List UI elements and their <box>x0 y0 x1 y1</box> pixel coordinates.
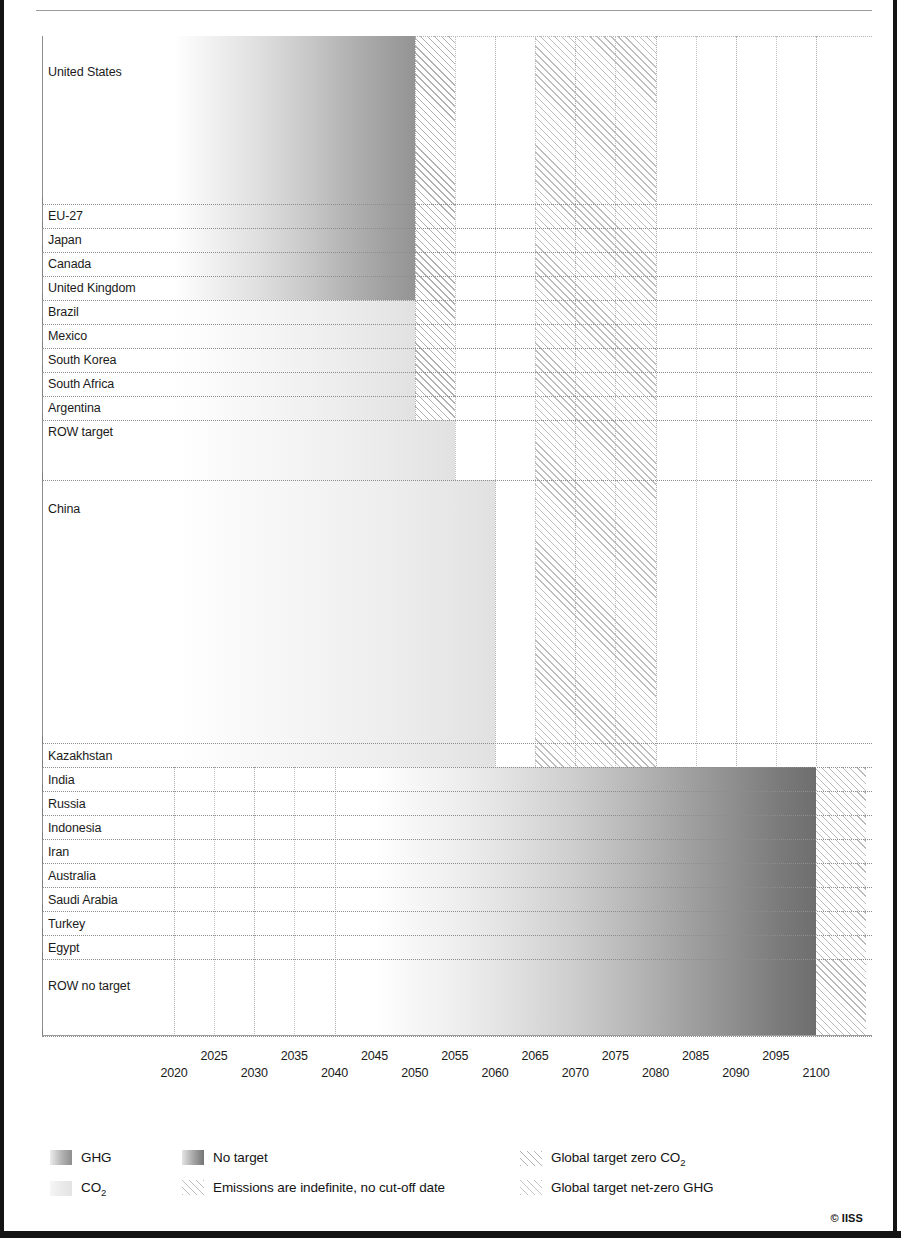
category-label-china: China <box>48 503 80 516</box>
category-label-egypt: Egypt <box>48 942 79 955</box>
legend-label-global-ghg: Global target net-zero GHG <box>551 1180 713 1195</box>
x-label-2080: 2080 <box>642 1066 669 1080</box>
category-tick <box>42 952 43 959</box>
indefinite-tail-indonesia <box>816 815 866 839</box>
bar-kazakhstan <box>174 743 495 767</box>
swatch-co2-icon <box>50 1181 72 1196</box>
row-separator <box>42 863 872 864</box>
x-label-2020: 2020 <box>160 1066 187 1080</box>
category-tick <box>42 880 43 887</box>
indefinite-tail-iran <box>816 839 866 863</box>
bar-russia <box>375 791 816 815</box>
indefinite-tail-egypt <box>816 935 866 959</box>
bar-iran <box>375 839 816 863</box>
row-separator <box>42 204 872 205</box>
legend-item-global-ghg: Global target net-zero GHG <box>520 1180 713 1195</box>
x-label-2035: 2035 <box>281 1049 308 1063</box>
bar-japan <box>174 228 415 252</box>
row-separator <box>42 420 872 421</box>
bar-canada <box>174 252 415 276</box>
bar-saudi-arabia <box>375 887 816 911</box>
category-label-united-states: United States <box>48 66 122 79</box>
category-label-south-africa: South Africa <box>48 378 114 391</box>
swatch-global-ghg-icon <box>520 1180 542 1195</box>
category-label-canada: Canada <box>48 258 91 271</box>
x-label-2075: 2075 <box>602 1049 629 1063</box>
row-separator <box>42 935 872 936</box>
x-label-2030: 2030 <box>241 1066 268 1080</box>
row-separator <box>42 480 872 481</box>
bar-indonesia <box>375 815 816 839</box>
category-tick <box>42 832 43 839</box>
category-label-turkey: Turkey <box>48 918 85 931</box>
category-label-argentina: Argentina <box>48 402 101 415</box>
swatch-ghg-icon <box>50 1150 72 1165</box>
bar-south-africa <box>174 372 415 396</box>
row-separator <box>42 276 872 277</box>
category-label-row-no-target: ROW no target <box>48 980 130 993</box>
x-label-2065: 2065 <box>522 1049 549 1063</box>
category-tick <box>42 317 43 324</box>
indefinite-tail-row-no-target <box>816 959 866 1036</box>
indefinite-tail-india <box>816 767 866 791</box>
category-tick <box>42 928 43 935</box>
row-separator <box>42 348 872 349</box>
row-separator <box>42 743 872 744</box>
category-tick <box>42 413 43 420</box>
bar-row-target <box>174 420 455 480</box>
category-label-brazil: Brazil <box>48 306 79 319</box>
x-label-2085: 2085 <box>682 1049 709 1063</box>
category-tick <box>42 365 43 372</box>
row-separator <box>42 767 872 768</box>
category-label-australia: Australia <box>48 870 96 883</box>
legend-item-indefinite: Emissions are indefinite, no cut-off dat… <box>182 1180 445 1195</box>
chart-inner: United StatesEU-27JapanCanadaUnited King… <box>42 36 872 1036</box>
bar-row-no-target <box>375 959 816 1036</box>
swatch-indefinite-icon <box>182 1180 204 1195</box>
x-label-2025: 2025 <box>201 1049 228 1063</box>
row-separator <box>42 887 872 888</box>
chart-plot-area: United StatesEU-27JapanCanadaUnited King… <box>42 36 872 1036</box>
x-label-2055: 2055 <box>441 1049 468 1063</box>
indefinite-tail-russia <box>816 791 866 815</box>
category-tick <box>42 245 43 252</box>
x-label-2070: 2070 <box>562 1066 589 1080</box>
category-label-iran: Iran <box>48 846 69 859</box>
x-label-2040: 2040 <box>321 1066 348 1080</box>
category-label-row-target: ROW target <box>48 426 113 439</box>
top-rule <box>36 10 872 11</box>
category-tick <box>42 341 43 348</box>
bar-united-states <box>174 36 415 204</box>
x-label-2095: 2095 <box>762 1049 789 1063</box>
legend-item-global-co2: Global target zero CO2 <box>520 1150 685 1168</box>
bar-china <box>174 480 495 744</box>
category-tick <box>42 293 43 300</box>
row-separator <box>42 959 872 960</box>
legend-item-no-target: No target <box>182 1150 268 1165</box>
bar-australia <box>375 863 816 887</box>
x-label-2090: 2090 <box>722 1066 749 1080</box>
row-separator <box>42 839 872 840</box>
swatch-no-target-icon <box>182 1150 204 1165</box>
x-label-2045: 2045 <box>361 1049 388 1063</box>
bar-brazil <box>174 300 415 324</box>
category-label-south-korea: South Korea <box>48 354 116 367</box>
indefinite-tail-saudi-arabia <box>816 887 866 911</box>
category-tick <box>42 473 43 480</box>
category-label-saudi-arabia: Saudi Arabia <box>48 894 118 907</box>
bar-mexico <box>174 324 415 348</box>
legend-item-ghg: GHG <box>50 1150 111 1165</box>
bottom-rule <box>4 1231 901 1238</box>
row-separator <box>42 911 872 912</box>
legend-label-global-co2: Global target zero CO2 <box>551 1150 685 1168</box>
bar-south-korea <box>174 348 415 372</box>
indefinite-tail-australia <box>816 863 866 887</box>
row-separator <box>42 1036 872 1037</box>
legend-item-co2: CO2 <box>50 1180 106 1198</box>
category-tick <box>42 784 43 791</box>
x-label-2050: 2050 <box>401 1066 428 1080</box>
category-label-eu-27: EU-27 <box>48 210 83 223</box>
row-separator <box>42 324 872 325</box>
x-label-2100: 2100 <box>802 1066 829 1080</box>
x-label-2060: 2060 <box>481 1066 508 1080</box>
